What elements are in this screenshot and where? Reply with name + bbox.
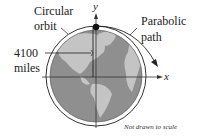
circular-orbit-label-1: Circular xyxy=(34,5,73,18)
orbit-leader-line xyxy=(61,28,68,34)
distance-value-label: 4100 xyxy=(14,47,38,60)
circular-orbit-label-2: orbit xyxy=(34,20,57,33)
parabolic-path-arrow-icon xyxy=(151,59,158,67)
x-axis-arrow-icon xyxy=(157,75,163,79)
parabolic-path-label-2: path xyxy=(141,31,162,44)
x-axis-label: x xyxy=(164,70,169,83)
parabola-leader-line xyxy=(130,28,137,35)
distance-unit-label: miles xyxy=(14,62,40,75)
parabolic-path-label-1: Parabolic xyxy=(141,15,186,28)
scale-note: Not drawn to scale xyxy=(124,123,177,131)
y-axis-arrow-icon xyxy=(94,13,98,19)
y-axis-label: y xyxy=(93,0,98,13)
satellite-icon xyxy=(93,24,99,30)
